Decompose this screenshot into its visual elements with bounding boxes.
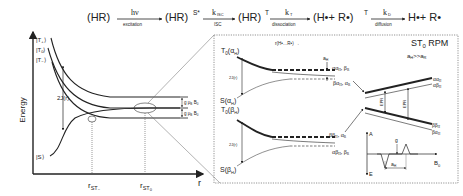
arrow-dissociation-bottom: dissociation [272, 22, 296, 27]
energy-axis-label: Energy [18, 97, 27, 122]
state-beta-alpha: βαH, αR [333, 80, 351, 87]
panel-title: ST0 RPM [411, 38, 448, 49]
curve-singlet [50, 108, 180, 156]
s-alpha-label: S(αH) [220, 97, 236, 106]
arrow-diffusion-top-sub: D [388, 12, 391, 17]
state-alpha-beta: αβH, βR [332, 149, 350, 156]
epr-spectrum: A E B0 g aH [367, 131, 441, 177]
level-label-t-plus: |T+⟩ [36, 37, 46, 44]
curve-t-plus [51, 38, 180, 97]
species-hr-triplet: (HR) [238, 11, 261, 23]
hyperfine-splitting-label: aH [391, 161, 397, 168]
cidnp-diagram: (HR) hν excitation (HR) S* k ISC ISC (HR… [0, 0, 463, 196]
distance-label: r(H•…R•) → [275, 41, 299, 46]
pointer-arrow-lower [345, 109, 363, 132]
arrow-dissociation-top: k [285, 8, 289, 17]
species-hr-singlet-sup: S* [193, 9, 200, 16]
arrow-dissociation-top-sub: T [290, 12, 293, 17]
species-hr: (HR) [87, 11, 110, 23]
state-beta-beta: ββH, αR [329, 132, 347, 139]
zoom-connector-bottom [148, 113, 220, 183]
svg-text:|T0⟩: |T0⟩ [36, 47, 45, 54]
state-alpha-alpha: ααH, βR [332, 65, 350, 72]
hyperfine-condition: aH>>aR [407, 53, 427, 60]
level-label-singlet: |S⟩ [36, 154, 44, 160]
exchange-label: 2J(r) [57, 95, 69, 101]
svg-text:|T−⟩: |T−⟩ [36, 57, 46, 64]
spectrum-trace [377, 144, 418, 168]
hyperfine-label: aH [323, 55, 329, 62]
label-beta-alpha: βαH [432, 129, 441, 136]
species-hr-singlet: (HR) [165, 11, 188, 23]
energy-diagram: Energy r |T+⟩ |T0⟩ |T−⟩ |S⟩ 2J(r) rST− r… [18, 32, 220, 192]
zeeman-label-lower: g μB B0 [184, 111, 199, 117]
st0-rpm-panel: ST0 RPM aH>>aR r(H•…R•) → T0(αH) S(αH) 2… [214, 35, 458, 183]
label-beta-beta: ββH [432, 122, 441, 129]
reaction-scheme: (HR) hν excitation (HR) S* k ISC ISC (HR… [87, 8, 441, 27]
tick-r-st-minus: rST− [88, 181, 101, 192]
species-hr-triplet-sup: T [265, 9, 269, 16]
t0-beta-label: T0(βH) [221, 106, 239, 115]
arrow-excitation-bottom: excitation [123, 22, 143, 27]
species-radical-pair: (H•+ R•) [313, 11, 353, 23]
upper-exchange-label: 2J(r) [229, 75, 238, 80]
zeeman-label-upper: g μB B0 [184, 100, 199, 106]
pointer-arrow-upper [353, 81, 364, 92]
lower-manifold: T0(βH) S(βH) 2J(r) ββH, αR αβH, βR [220, 106, 350, 175]
g-label: g [395, 137, 398, 143]
level-label-t-zero: |T0⟩ [36, 47, 45, 54]
arrow-isc-bottom: ISC [214, 22, 222, 27]
t0-alpha-label: T0(αH) [221, 47, 239, 56]
zoom-connector-top [148, 35, 214, 103]
s-beta-label: S(βH) [220, 166, 236, 175]
spectrum-field-label: B0 [434, 160, 441, 168]
tick-r-st-zero: rST0 [140, 181, 153, 192]
epr-label-2: EPR [402, 100, 407, 108]
crossing-st-minus [88, 116, 96, 122]
zeeman-level-diagram: ααH αβH ββH βαH EPR EPR [365, 76, 442, 136]
label-alpha-beta: αβH [433, 82, 442, 89]
species-free-radicals: H•+ R• [408, 11, 441, 23]
spectrum-absorption-label: A [369, 131, 373, 137]
level-label-t-minus: |T−⟩ [36, 57, 46, 64]
distance-axis-label: r [198, 178, 201, 188]
svg-text:|T+⟩: |T+⟩ [36, 37, 46, 44]
arrow-isc-top-sub: ISC [217, 12, 224, 17]
lower-exchange-label: 2J(r) [229, 142, 238, 147]
arrow-isc-top: k [212, 8, 216, 17]
arrow-diffusion-top: k [383, 8, 387, 17]
upper-manifold: T0(αH) S(αH) 2J(r) aH ααH, βR βαH, αR [220, 47, 351, 106]
arrow-diffusion-bottom: diffusion [375, 22, 392, 27]
epr-label-1: EPR [379, 98, 384, 106]
arrow-excitation-top: hν [131, 8, 139, 17]
spectrum-emission-label: E [369, 171, 373, 177]
species-radical-pair-sup: T [364, 9, 368, 16]
